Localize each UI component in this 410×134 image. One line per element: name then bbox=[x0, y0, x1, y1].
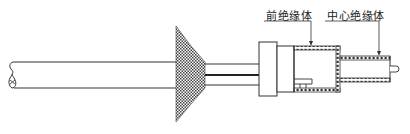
front-insulator-shell bbox=[294, 46, 340, 92]
label-center-insulator: 中心绝缘体 bbox=[327, 7, 385, 23]
leader-center-insulator bbox=[325, 21, 381, 56]
label-front-insulator: 前绝缘体 bbox=[266, 7, 312, 23]
center-insulator-sleeve bbox=[340, 56, 390, 82]
coupling-block bbox=[277, 46, 294, 92]
cable bbox=[9, 62, 178, 88]
tip-pin bbox=[390, 66, 399, 72]
mounting-panel bbox=[176, 26, 205, 122]
flange-block bbox=[259, 42, 277, 96]
inner-conductors bbox=[205, 64, 259, 85]
